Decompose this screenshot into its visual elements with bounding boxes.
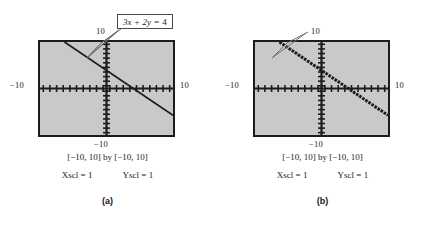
axis-label-right-b: 10 xyxy=(395,80,404,90)
equation-plus-a: + xyxy=(135,17,140,27)
equation-term-x-a: 3x xyxy=(123,17,132,27)
axis-label-left-a: −10 xyxy=(10,80,24,90)
axis-label-bottom-a: −10 xyxy=(94,139,108,149)
equation-term-y-a: 2y xyxy=(143,17,152,27)
axis-label-top-b: 10 xyxy=(311,26,320,36)
caption-yscl-b: Yscl = 1 xyxy=(338,170,369,180)
plotted-curve-b xyxy=(280,42,389,115)
equation-equals-a: = xyxy=(154,17,159,27)
plot-svg-b xyxy=(255,42,388,135)
plot-area-a xyxy=(38,40,175,137)
subfigure-letter-a: (a) xyxy=(0,196,215,206)
subfigure-letter-b: (b) xyxy=(215,196,430,206)
axis-label-left-b: −10 xyxy=(225,80,239,90)
figure-b: 10 −10 10 −10 r = 4 3 cos θ + 2 sin θ [−… xyxy=(215,0,430,233)
equation-callout-a: 3x + 2y = 4 xyxy=(117,14,173,29)
plot-svg-a xyxy=(40,42,173,135)
caption-yscl-a: Yscl = 1 xyxy=(123,170,154,180)
caption-scale-b: Xscl = 1 Yscl = 1 xyxy=(215,170,430,180)
caption-xscl-b: Xscl = 1 xyxy=(277,170,308,180)
axis-label-bottom-b: −10 xyxy=(309,139,323,149)
caption-xscl-a: Xscl = 1 xyxy=(62,170,93,180)
figure-a: 10 −10 10 −10 3x + 2y = 4 [−10, 10] by [… xyxy=(0,0,215,233)
equation-rhs-a: 4 xyxy=(162,17,167,27)
calculator-screen-a xyxy=(38,40,175,137)
axis-label-top-a: 10 xyxy=(96,26,105,36)
plot-area-b xyxy=(253,40,390,137)
caption-range-a: [−10, 10] by [−10, 10] xyxy=(0,152,215,162)
caption-range-b: [−10, 10] by [−10, 10] xyxy=(215,152,430,162)
caption-scale-a: Xscl = 1 Yscl = 1 xyxy=(0,170,215,180)
plotted-curve-a xyxy=(65,42,174,115)
calculator-screen-b xyxy=(253,40,390,137)
axis-label-right-a: 10 xyxy=(180,80,189,90)
